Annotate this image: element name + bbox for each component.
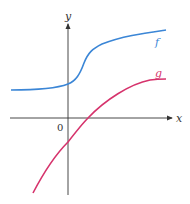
x-axis-label: x: [176, 112, 183, 125]
curve-g: [33, 79, 166, 193]
g-curve-label: g: [155, 67, 162, 80]
y-axis-label: y: [64, 10, 72, 23]
function-graph: y x 0 f g: [0, 0, 190, 204]
curve-f: [11, 30, 166, 90]
origin-label: 0: [57, 122, 63, 133]
graph-canvas: y x 0 f g: [0, 0, 190, 204]
f-curve-label: f: [154, 36, 161, 49]
